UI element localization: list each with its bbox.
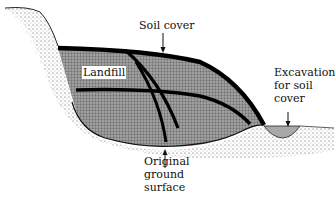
label-original-line3: surface xyxy=(144,181,190,194)
label-original-ground: Original ground surface xyxy=(144,155,190,194)
label-original-line1: Original xyxy=(144,155,190,168)
soil-cover-arrow-icon xyxy=(161,33,166,53)
label-soil-cover: Soil cover xyxy=(139,19,194,32)
label-excavation-line1: Excavation xyxy=(274,66,335,79)
label-landfill: Landfill xyxy=(82,66,126,79)
label-excavation: Excavation for soil cover xyxy=(274,66,335,105)
label-excavation-line3: cover xyxy=(274,92,335,105)
excavation-arrow-icon xyxy=(286,112,291,127)
label-excavation-line2: for soil xyxy=(274,79,335,92)
label-original-line2: ground xyxy=(144,168,190,181)
